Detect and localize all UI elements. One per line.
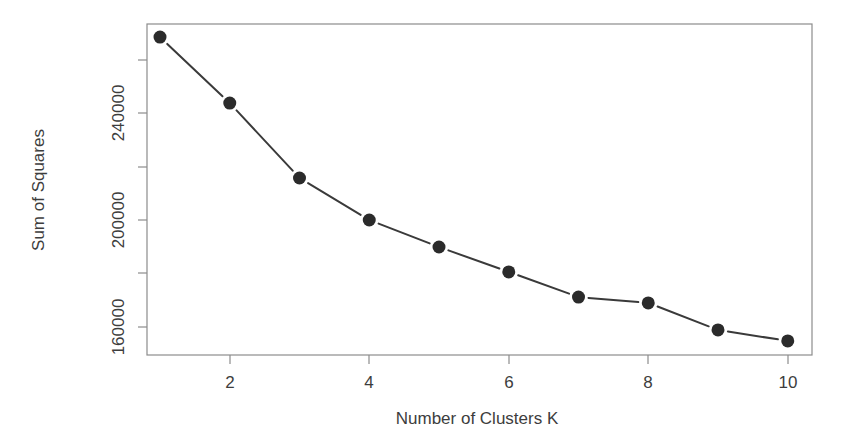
y-tick-label-160000: 160000 bbox=[109, 299, 128, 356]
data-point-marker bbox=[502, 265, 515, 278]
plot-area-border bbox=[147, 24, 812, 355]
y-tick-label-240000: 240000 bbox=[109, 85, 128, 142]
y-axis-title: Sum of Squares bbox=[29, 129, 48, 251]
chart-canvas: 240000 200000 160000 2 4 6 8 10 Number o… bbox=[0, 0, 853, 447]
data-point-marker bbox=[363, 214, 376, 227]
x-tick-label-10: 10 bbox=[779, 373, 798, 392]
x-tick-label-4: 4 bbox=[364, 373, 373, 392]
data-point-marker bbox=[642, 296, 655, 309]
data-point-marker bbox=[712, 323, 725, 336]
x-tick-label-8: 8 bbox=[643, 373, 652, 392]
data-point-marker bbox=[154, 31, 167, 44]
data-point-marker bbox=[293, 172, 306, 185]
y-axis-tick-labels: 240000 200000 160000 bbox=[109, 85, 128, 356]
data-point-marker bbox=[223, 97, 236, 110]
data-point-marker bbox=[572, 291, 585, 304]
x-axis-tick-labels: 2 4 6 8 10 bbox=[225, 373, 797, 392]
data-point-marker bbox=[433, 241, 446, 254]
y-axis-ticks bbox=[138, 60, 147, 327]
y-tick-label-200000: 200000 bbox=[109, 192, 128, 249]
x-axis-title: Number of Clusters K bbox=[396, 409, 559, 428]
data-point-marker bbox=[781, 334, 794, 347]
x-axis-ticks bbox=[230, 355, 788, 364]
x-tick-label-2: 2 bbox=[225, 373, 234, 392]
x-tick-label-6: 6 bbox=[504, 373, 513, 392]
elbow-plot-figure: 240000 200000 160000 2 4 6 8 10 Number o… bbox=[0, 0, 853, 447]
